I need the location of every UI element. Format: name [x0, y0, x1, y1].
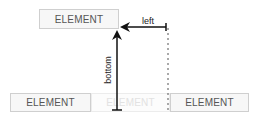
left-label: left [142, 16, 154, 26]
arrows-overlay [0, 0, 261, 123]
bottom-label: bottom [103, 50, 113, 90]
